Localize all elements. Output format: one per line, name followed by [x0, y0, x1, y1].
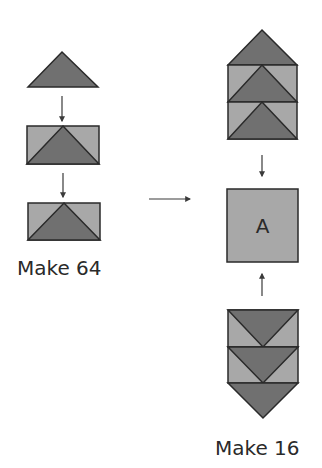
square-a-label: A	[256, 214, 270, 238]
flying-geese-unit-1	[27, 126, 99, 164]
square-a: A	[227, 189, 298, 262]
flying-geese-unit-2	[28, 203, 100, 240]
bottom-stack	[228, 310, 298, 418]
left-triangle	[28, 52, 98, 87]
assembly-diagram: A	[0, 0, 322, 468]
top-stack	[228, 30, 297, 139]
make-64-caption: Make 64	[17, 256, 102, 280]
make-16-caption: Make 16	[215, 436, 300, 460]
